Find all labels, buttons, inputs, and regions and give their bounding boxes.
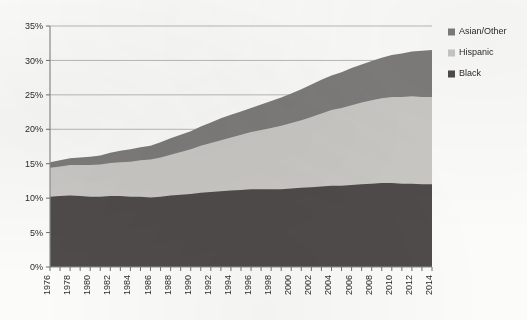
legend-swatch	[448, 29, 455, 36]
x-tick-label: 1996	[243, 275, 253, 295]
x-tick-label: 1986	[143, 275, 153, 295]
y-axis-tick-labels: 0%5%10%15%20%25%30%35%	[25, 21, 50, 272]
x-tick-label: 1998	[263, 275, 273, 295]
y-tick-label: 10%	[25, 193, 43, 203]
x-tick-label: 2004	[323, 275, 333, 295]
x-tick-label: 1990	[183, 275, 193, 295]
y-tick-label: 25%	[25, 90, 43, 100]
x-axis-tick-labels: 1976197819801982198419861988199019921994…	[42, 267, 434, 295]
x-tick-label: 2014	[424, 275, 434, 295]
y-tick-label: 35%	[25, 21, 43, 31]
x-tick-label: 1982	[102, 275, 112, 295]
x-tick-label: 2006	[344, 275, 354, 295]
x-tick-label: 1988	[163, 275, 173, 295]
x-tick-label: 2010	[384, 275, 394, 295]
x-tick-label: 2008	[364, 275, 374, 295]
legend-swatch	[448, 50, 455, 57]
x-tick-label: 2000	[283, 275, 293, 295]
area-series-group	[50, 50, 432, 267]
legend-label: Asian/Other	[459, 26, 507, 36]
x-tick-label: 1992	[203, 275, 213, 295]
y-tick-label: 5%	[30, 228, 43, 238]
x-tick-label: 2012	[404, 275, 414, 295]
x-tick-label: 1978	[62, 275, 72, 295]
chart-legend: Asian/OtherHispanicBlack	[448, 26, 507, 78]
x-tick-label: 1994	[223, 275, 233, 295]
x-tick-label: 1976	[42, 275, 52, 295]
x-tick-label: 1980	[82, 275, 92, 295]
x-tick-label: 1984	[122, 275, 132, 295]
y-tick-label: 20%	[25, 124, 43, 134]
y-tick-label: 30%	[25, 56, 43, 66]
y-tick-label: 15%	[25, 159, 43, 169]
chart-figure: 0%5%10%15%20%25%30%35% 19761978198019821…	[0, 0, 527, 320]
y-tick-label: 0%	[30, 262, 43, 272]
x-tick-label: 2002	[303, 275, 313, 295]
legend-label: Black	[459, 68, 482, 78]
legend-label: Hispanic	[459, 47, 494, 57]
stacked-area-chart: 0%5%10%15%20%25%30%35% 19761978198019821…	[0, 0, 527, 320]
legend-swatch	[448, 71, 455, 78]
